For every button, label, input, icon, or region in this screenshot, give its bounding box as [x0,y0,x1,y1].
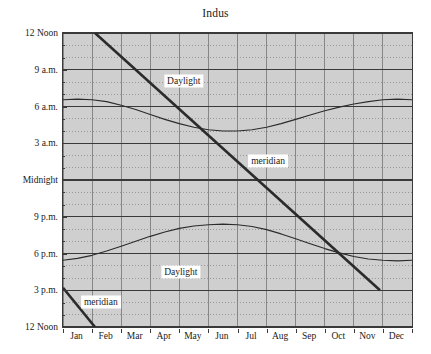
y-axis-tick [62,168,65,169]
y-tick-label: Midnight [0,175,58,185]
y-tick-label: 12 Noon [0,322,58,332]
x-axis-labels: JanFebMarAprMayJunJulAugSepOctNovDec [62,331,413,349]
y-axis-tick [62,143,67,144]
y-axis-tick [62,156,65,157]
y-axis-tick [62,290,67,291]
y-axis-labels: 12 Noon9 a.m.6 a.m.3 a.m.Midnight9 p.m.6… [0,32,58,328]
y-axis-tick [62,131,65,132]
y-axis-tick [62,327,67,328]
chart-title: Indus [0,7,431,19]
y-axis-tick [62,266,65,267]
y-axis-tick [62,192,65,193]
plot-svg [63,33,412,327]
plot-area: DaylightDaylightmeridianmeridian [62,32,413,328]
x-axis-tick [92,329,93,333]
y-tick-label: 3 p.m. [0,285,58,295]
x-axis-tick [412,329,413,333]
x-axis-tick [325,329,326,333]
chart-annotation: Daylight [164,74,203,87]
x-axis-tick [238,329,239,333]
y-axis-tick [62,82,65,83]
y-axis-tick [62,315,65,316]
x-axis-tick [179,329,180,333]
y-axis-tick [62,94,65,95]
y-axis-tick [62,241,65,242]
x-axis-tick [267,329,268,333]
y-axis-tick [62,278,65,279]
y-axis-tick [62,119,65,120]
y-tick-label: 9 p.m. [0,212,58,222]
y-tick-label: 3 a.m. [0,138,58,148]
x-axis-tick [208,329,209,333]
y-axis-tick [62,205,65,206]
y-tick-label: 9 a.m. [0,65,58,75]
y-axis-tick [62,229,65,230]
y-tick-label: 6 a.m. [0,102,58,112]
x-axis-tick [296,329,297,333]
y-axis-tick [62,70,67,71]
y-axis-tick [62,254,67,255]
chart-annotation: Daylight [161,266,200,279]
y-tick-label: 6 p.m. [0,249,58,259]
y-axis-tick [62,33,67,34]
y-axis-tick [62,45,65,46]
x-axis-tick [121,329,122,333]
y-axis-tick [62,180,67,181]
y-axis-tick [62,303,65,304]
chart-annotation: meridian [81,295,121,308]
x-tick-label: Dec [379,331,413,341]
chart-annotation: meridian [248,155,288,168]
x-axis-tick [383,329,384,333]
chart-container: Indus 12 Noon9 a.m.6 a.m.3 a.m.Midnight9… [0,0,431,354]
x-axis-tick [354,329,355,333]
y-axis-tick [62,58,65,59]
y-axis-tick [62,107,67,108]
y-tick-label: 12 Noon [0,28,58,38]
x-axis-tick [150,329,151,333]
x-axis-tick [63,329,64,333]
y-axis-tick [62,217,67,218]
